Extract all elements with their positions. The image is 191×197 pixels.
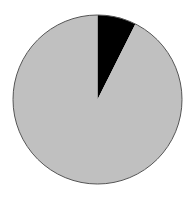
pie-slices: [13, 15, 182, 184]
pie-chart: [0, 0, 191, 197]
pie-slice-slice-b: [13, 15, 182, 184]
